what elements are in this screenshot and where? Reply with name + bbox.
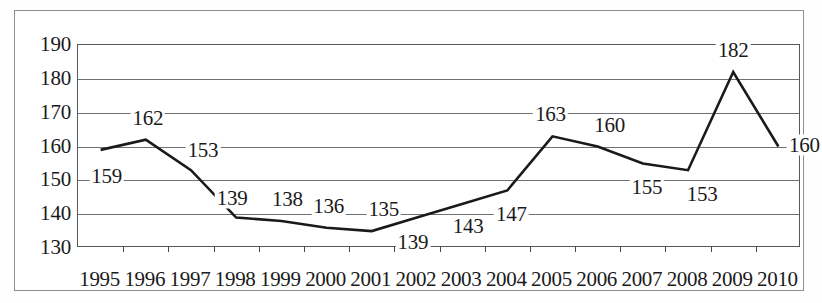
y-tick-label-170: 170 <box>25 102 71 123</box>
y-tick-label-140: 140 <box>25 203 71 224</box>
data-label-2004: 147 <box>494 204 529 225</box>
x-tick-label-1998: 1998 <box>215 269 256 290</box>
x-tick-2010 <box>756 246 757 252</box>
x-tick-label-2008: 2008 <box>667 269 708 290</box>
y-tick-label-150: 150 <box>25 169 71 190</box>
x-tick-label-2004: 2004 <box>486 269 527 290</box>
x-tick-1997 <box>168 246 169 252</box>
x-tick-label-2005: 2005 <box>531 269 572 290</box>
data-label-2005: 163 <box>533 104 568 125</box>
x-tick-2006 <box>575 246 576 252</box>
figure-border: 130140150160170180190 159162153139138136… <box>14 10 804 291</box>
x-tick-label-1996: 1996 <box>124 269 165 290</box>
y-tick-label-190: 190 <box>25 34 71 55</box>
x-tick-label-2009: 2009 <box>712 269 753 290</box>
x-tick-label-2001: 2001 <box>350 269 391 290</box>
x-tick-2007 <box>620 246 621 252</box>
x-tick-1996 <box>123 246 124 252</box>
x-tick-2009 <box>711 246 712 252</box>
data-label-2003: 143 <box>451 216 486 237</box>
data-label-2000: 136 <box>311 195 346 216</box>
data-label-2010: 160 <box>787 134 822 155</box>
x-tick-label-2002: 2002 <box>396 269 437 290</box>
data-label-1995: 159 <box>89 165 124 186</box>
x-tick-1999 <box>259 246 260 252</box>
data-label-2008: 153 <box>685 184 720 205</box>
data-label-2001: 135 <box>366 199 401 220</box>
x-tick-label-1995: 1995 <box>79 269 120 290</box>
x-tick-2003 <box>440 246 441 252</box>
x-tick-2005 <box>530 246 531 252</box>
data-label-1999: 138 <box>270 188 305 209</box>
data-label-1997: 153 <box>186 140 221 161</box>
data-label-2002: 139 <box>396 231 431 252</box>
data-label-2006: 160 <box>592 114 627 135</box>
x-tick-label-1997: 1997 <box>170 269 211 290</box>
x-tick-label-2000: 2000 <box>305 269 346 290</box>
x-axis: 1995199619971998199920002001200220032004… <box>77 269 800 295</box>
data-label-1998: 139 <box>215 187 250 208</box>
y-axis: 130140150160170180190 <box>23 44 71 247</box>
y-tick-label-180: 180 <box>25 68 71 89</box>
data-label-2009: 182 <box>716 40 751 61</box>
x-tick-label-1999: 1999 <box>260 269 301 290</box>
data-label-2007: 155 <box>630 177 665 198</box>
plot-area: 1591621531391381361351391431471631601551… <box>77 44 800 247</box>
x-tick-1998 <box>214 246 215 252</box>
x-tick-label-2006: 2006 <box>576 269 617 290</box>
x-tick-2008 <box>665 246 666 252</box>
x-tick-2001 <box>349 246 350 252</box>
y-tick-label-130: 130 <box>25 237 71 258</box>
x-tick-label-2010: 2010 <box>757 269 798 290</box>
x-tick-2000 <box>304 246 305 252</box>
x-tick-2004 <box>485 246 486 252</box>
x-tick-label-2007: 2007 <box>621 269 662 290</box>
data-label-1996: 162 <box>130 107 165 128</box>
y-tick-label-160: 160 <box>25 136 71 157</box>
x-tick-label-2003: 2003 <box>441 269 482 290</box>
